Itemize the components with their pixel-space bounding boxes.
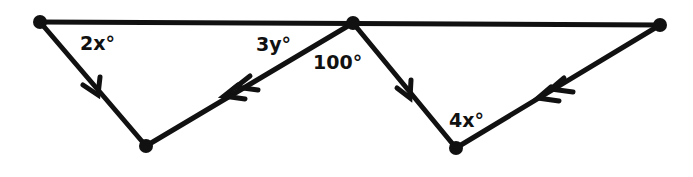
point-b	[346, 16, 360, 30]
segment-c-e	[456, 25, 660, 148]
angle-label-4x: 4x°	[449, 109, 484, 131]
segment-b-d	[146, 23, 353, 146]
point-d	[139, 139, 153, 153]
angle-label-100: 100°	[313, 51, 362, 73]
point-a	[33, 15, 47, 29]
angle-label-3y: 3y°	[256, 33, 291, 55]
point-e	[449, 141, 463, 155]
segment-b-e	[353, 23, 456, 148]
angle-label-2x: 2x°	[80, 32, 115, 54]
double-arrow-icon	[224, 76, 258, 99]
geometry-diagram: 2x° 3y° 100° 4x°	[0, 0, 693, 177]
point-c	[653, 18, 667, 32]
